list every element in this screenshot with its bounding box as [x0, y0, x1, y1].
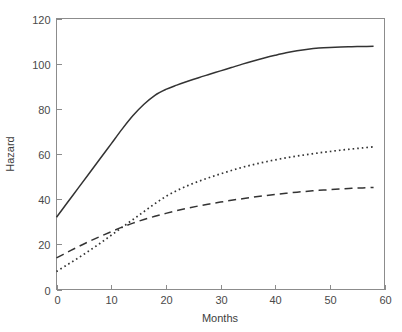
y-axis-title: Hazard: [4, 136, 16, 171]
y-tick-label-60: 60: [38, 149, 50, 161]
chart-background: [0, 0, 402, 332]
y-tick-label-0: 0: [44, 285, 50, 297]
x-tick-label-20: 20: [160, 294, 172, 306]
x-tick-label-0: 0: [54, 294, 60, 306]
y-tick-label-80: 80: [38, 104, 50, 116]
x-tick-label-60: 60: [379, 294, 391, 306]
hazard-chart-figure: 0102030405060 020406080100120 Months Haz…: [0, 0, 402, 332]
y-tick-label-40: 40: [38, 194, 50, 206]
y-tick-label-120: 120: [32, 14, 50, 26]
x-tick-label-10: 10: [105, 294, 117, 306]
x-axis-title: Months: [202, 312, 239, 324]
y-tick-label-20: 20: [38, 239, 50, 251]
x-tick-label-50: 50: [324, 294, 336, 306]
y-tick-label-100: 100: [32, 59, 50, 71]
x-tick-label-40: 40: [269, 294, 281, 306]
chart-canvas: 0102030405060 020406080100120 Months Haz…: [0, 0, 402, 332]
x-tick-label-30: 30: [215, 294, 227, 306]
